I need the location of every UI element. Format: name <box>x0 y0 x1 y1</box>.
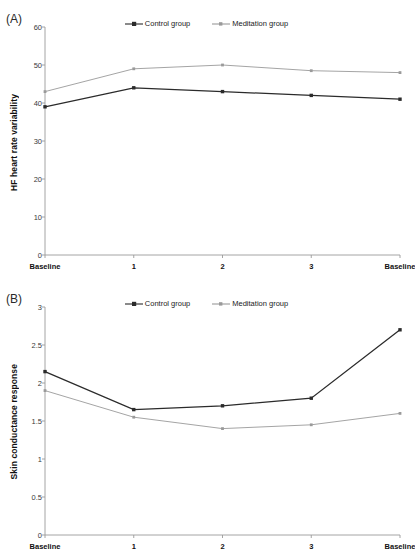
x-tick-label: 2 <box>220 542 224 551</box>
panel-b: (B) Skin conductance response 00.511.522… <box>0 280 413 560</box>
data-point-marker <box>221 90 224 93</box>
x-tick-label: 1 <box>132 542 136 551</box>
x-tick-label: Baseline <box>30 542 61 551</box>
data-point-marker <box>310 397 313 400</box>
panel-a-plot <box>0 0 413 280</box>
data-point-marker <box>132 67 135 70</box>
data-point-marker <box>132 86 135 89</box>
panel-b-x-ticks: Baseline123Baseline <box>0 542 413 558</box>
data-point-marker <box>310 94 313 97</box>
data-point-marker <box>43 105 46 108</box>
data-point-marker <box>221 64 224 67</box>
series-line-meditation <box>45 65 400 92</box>
data-point-marker <box>44 389 47 392</box>
x-tick-label: Baseline <box>30 262 61 271</box>
data-point-marker <box>310 69 313 72</box>
data-point-marker <box>399 412 402 415</box>
x-tick-label: Baseline <box>385 542 415 551</box>
data-point-marker <box>132 416 135 419</box>
data-point-marker <box>398 98 401 101</box>
x-tick-label: Baseline <box>385 262 415 271</box>
data-point-marker <box>310 423 313 426</box>
panel-a: (A) HF heart rate variability 0102030405… <box>0 0 413 280</box>
data-point-marker <box>399 71 402 74</box>
series-line-control <box>45 330 400 410</box>
data-point-marker <box>43 370 46 373</box>
panel-b-plot <box>0 280 413 560</box>
data-point-marker <box>221 404 224 407</box>
panel-a-x-ticks: Baseline123Baseline <box>0 262 413 278</box>
series-line-meditation <box>45 391 400 429</box>
data-point-marker <box>132 408 135 411</box>
data-point-marker <box>44 90 47 93</box>
x-tick-label: 3 <box>309 542 313 551</box>
x-tick-label: 2 <box>220 262 224 271</box>
data-point-marker <box>398 328 401 331</box>
data-point-marker <box>221 427 224 430</box>
x-tick-label: 1 <box>132 262 136 271</box>
x-tick-label: 3 <box>309 262 313 271</box>
